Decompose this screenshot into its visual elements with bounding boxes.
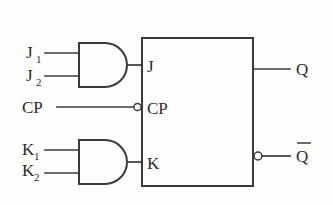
input-label-j1-base: J [26, 43, 33, 62]
qbar-output-group [254, 152, 290, 160]
output-label-q: Q [296, 60, 308, 79]
pin-label-cp: CP [147, 99, 168, 118]
input-label-k2-subscript: 2 [34, 171, 40, 183]
input-label-j2-subscript: 2 [36, 76, 42, 88]
and-gate-j-body [79, 43, 127, 87]
pin-label-k: K [147, 154, 160, 173]
qbar-inversion-bubble-icon [254, 152, 262, 160]
output-label-qbar: Q [296, 147, 308, 166]
logic-diagram-canvas: J 1 J 2 CP K 1 K 2 J CP K Q Q [0, 0, 333, 205]
cp-inversion-bubble-icon [134, 103, 141, 110]
and-gate-j [45, 43, 142, 87]
cp-input-group [57, 103, 141, 110]
input-label-cp: CP [22, 98, 43, 117]
pin-label-j: J [147, 57, 154, 76]
diagram-svg: J 1 J 2 CP K 1 K 2 J CP K Q Q [0, 0, 333, 205]
and-gate-k-body [79, 140, 127, 184]
and-gate-k [45, 140, 142, 184]
input-label-j1-subscript: 1 [36, 53, 42, 65]
input-label-j2-base: J [26, 66, 33, 85]
input-label-k1-subscript: 1 [34, 150, 40, 162]
